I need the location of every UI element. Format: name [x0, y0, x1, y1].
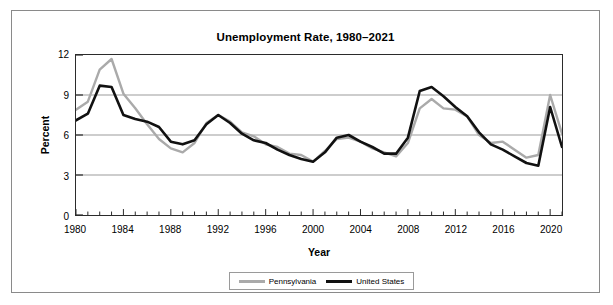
- y-tick-label: 9: [63, 89, 69, 100]
- legend-item-united-states: United States: [326, 277, 404, 286]
- y-tick-label: 12: [58, 49, 69, 60]
- legend-line-icon-pennsylvania: [239, 280, 265, 283]
- plot-wrapper: Percent 036912 1980198419881992199620002…: [75, 54, 563, 216]
- x-tick-label: 1980: [64, 224, 86, 235]
- chart-svg: [76, 55, 562, 215]
- x-tick-label: 2004: [350, 224, 372, 235]
- y-tick-label: 3: [63, 170, 69, 181]
- chart-legend: Pennsylvania United States: [229, 272, 414, 290]
- x-tick-label: 1988: [159, 224, 181, 235]
- y-tick-label: 6: [63, 130, 69, 141]
- legend-label-pennsylvania: Pennsylvania: [269, 277, 317, 286]
- x-tick-label: 1996: [254, 224, 276, 235]
- plot-area: [75, 54, 563, 216]
- chart-title: Unemployment Rate, 1980–2021: [12, 31, 599, 43]
- y-tick-label: 0: [63, 211, 69, 222]
- x-tick-label: 2020: [540, 224, 562, 235]
- x-axis-label: Year: [75, 246, 563, 258]
- legend-item-pennsylvania: Pennsylvania: [239, 277, 317, 286]
- x-tick-label: 2016: [492, 224, 514, 235]
- legend-line-icon-united-states: [326, 280, 352, 283]
- chart-figure-frame: Unemployment Rate, 1980–2021 Percent 036…: [11, 10, 600, 293]
- x-tick-label: 2000: [302, 224, 324, 235]
- x-tick-label: 1984: [111, 224, 133, 235]
- x-tick-label: 2012: [445, 224, 467, 235]
- legend-label-united-states: United States: [356, 277, 404, 286]
- y-axis-label: Percent: [39, 116, 51, 155]
- x-tick-label: 1992: [207, 224, 229, 235]
- x-tick-label: 2008: [397, 224, 419, 235]
